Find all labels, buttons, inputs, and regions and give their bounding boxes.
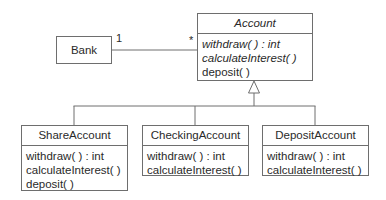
- generalization-triangle-icon: [249, 81, 260, 93]
- class-checking-account-operations: withdraw( ) : int calculateInterest( ): [143, 146, 248, 177]
- operation-calculate-interest: calculateInterest( ): [202, 51, 312, 65]
- class-bank: Bank: [56, 36, 112, 64]
- operation-calculate-interest: calculateInterest( ): [147, 163, 248, 177]
- operation-withdraw: withdraw( ) : int: [202, 37, 312, 51]
- operation-calculate-interest: calculateInterest( ): [26, 163, 127, 177]
- class-deposit-account-name: DepositAccount: [263, 126, 368, 146]
- operation-calculate-interest: calculateInterest( ): [267, 163, 368, 177]
- class-checking-account-name: CheckingAccount: [143, 126, 248, 146]
- class-account-operations: withdraw( ) : int calculateInterest( ) d…: [198, 34, 312, 79]
- class-deposit-account: DepositAccount withdraw( ) : int calcula…: [262, 125, 369, 176]
- class-share-account: ShareAccount withdraw( ) : int calculate…: [21, 125, 128, 191]
- class-deposit-account-operations: withdraw( ) : int calculateInterest( ): [263, 146, 368, 177]
- class-account-name: Account: [198, 14, 312, 34]
- class-checking-account: CheckingAccount withdraw( ) : int calcul…: [142, 125, 249, 176]
- multiplicity-account: *: [189, 35, 193, 46]
- operation-withdraw: withdraw( ) : int: [267, 149, 368, 163]
- multiplicity-bank: 1: [116, 33, 122, 44]
- operation-deposit: deposit( ): [26, 177, 127, 191]
- class-share-account-name: ShareAccount: [22, 126, 127, 146]
- operation-withdraw: withdraw( ) : int: [26, 149, 127, 163]
- operation-withdraw: withdraw( ) : int: [147, 149, 248, 163]
- class-account: Account withdraw( ) : int calculateInter…: [197, 13, 313, 81]
- class-bank-name: Bank: [71, 44, 97, 56]
- uml-class-diagram: Bank 1 * Account withdraw( ) : int calcu…: [0, 0, 386, 200]
- operation-deposit: deposit( ): [202, 65, 312, 79]
- class-share-account-operations: withdraw( ) : int calculateInterest( ) d…: [22, 146, 127, 191]
